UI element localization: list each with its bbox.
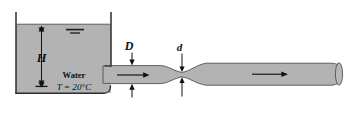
head-label: H — [36, 51, 48, 65]
pipe-outlet-ellipse — [335, 63, 342, 85]
figure-canvas: H Water T = 20°C D d — [0, 0, 360, 126]
fluid-mechanics-figure: H Water T = 20°C D d — [0, 0, 360, 126]
throat-diameter-label: d — [177, 41, 183, 53]
fluid-label: Water — [63, 70, 86, 80]
venturi-pipe-body — [103, 63, 343, 85]
temperature-label: T = 20°C — [57, 82, 93, 92]
pipe-diameter-label: D — [124, 39, 134, 53]
